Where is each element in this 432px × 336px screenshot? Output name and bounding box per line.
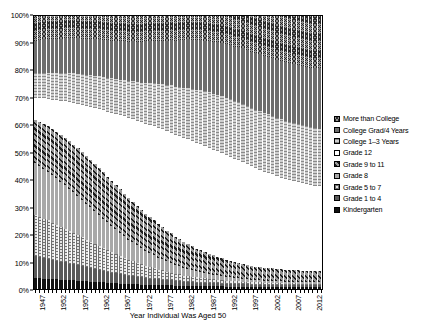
bar-segment-college-1-3-years [85,75,88,106]
x-axis-tick-mark [248,290,249,293]
bar-segment-kindergarten [275,287,278,289]
bar-segment-grade-5-to-7 [89,242,92,268]
bar-segment-grade-9-to-11 [131,202,134,242]
bar-segment-grade-5-to-7 [68,231,71,264]
bar-segment-grade-12 [136,121,139,206]
bar-segment-grade-1-to-4 [81,266,84,281]
bar-segment-kindergarten [127,284,130,289]
x-axis-tick-mark [35,290,36,293]
bar-segment-grade-5-to-7 [72,233,75,264]
legend-item[interactable]: Grade 1 to 4 [334,193,432,204]
bar-segment-college-grad-4-years [102,40,105,77]
y-axis-tick-label: 100% [11,11,29,20]
legend-item[interactable]: College 1–3 Years [334,136,432,147]
bar-segment-grade-9-to-11 [81,152,84,200]
bar-segment-more-than-college [76,16,79,38]
bar-segment-college-grad-4-years [212,42,215,94]
bar-segment-college-1-3-years [288,122,291,181]
bar-segment-college-grad-4-years [275,60,278,118]
legend-item[interactable]: More than College [334,113,432,124]
bar-segment-college-1-3-years [38,73,41,98]
bar-segment-college-grad-4-years [89,39,92,75]
bar-segment-grade-8 [131,242,134,261]
bar-segment-grade-9-to-11 [76,148,79,196]
bar-segment-grade-12 [51,100,54,129]
y-axis-tick-label: 80% [15,66,29,75]
bar-segment-kindergarten [229,287,232,289]
bar-segment-kindergarten [203,286,206,289]
x-axis-tick-mark [184,290,185,293]
bar-segment-grade-8 [178,266,181,274]
bar-segment-grade-9-to-11 [216,257,219,276]
bar-segment-grade-9-to-11 [64,138,67,185]
bar-segment-grade-8 [81,200,84,238]
bar-segment-grade-9-to-11 [225,260,228,277]
bar-segment-college-grad-4-years [182,40,185,88]
legend-item[interactable]: Grade 8 [334,170,432,181]
bar-segment-more-than-college [182,16,185,40]
bar-segment-grade-5-to-7 [51,223,54,260]
bar-segment-more-than-college [195,16,198,40]
bar-segment-kindergarten [263,287,266,289]
bar-segment-college-grad-4-years [208,41,211,92]
legend-item-label: Grade 5 to 7 [343,183,381,192]
bar-segment-grade-12 [76,104,79,148]
bar-segment-college-grad-4-years [85,39,88,75]
legend-item-label: More than College [343,114,399,123]
bar-segment-kindergarten [225,287,228,289]
bar-segment-grade-9-to-11 [89,160,92,207]
bar-segment-grade-1-to-4 [106,272,109,283]
bar-column[interactable] [318,16,322,289]
bar-segment-grade-9-to-11 [233,262,236,278]
legend-item[interactable]: Grade 5 to 7 [334,181,432,192]
bar-segment-more-than-college [72,16,75,38]
bar-segment-college-grad-4-years [148,41,151,83]
bar-segment-more-than-college [165,16,168,41]
bar-segment-kindergarten [153,285,156,289]
bar-segment-grade-12 [297,182,300,270]
legend-item-label: Grade 8 [343,171,368,180]
bar-segment-grade-5-to-7 [157,270,160,280]
bar-segment-kindergarten [288,287,291,289]
bar-segment-college-grad-4-years [68,38,71,73]
bar-segment-grade-8 [106,222,109,250]
bar-segment-grade-1-to-4 [47,259,50,279]
bar-segment-kindergarten [34,278,37,289]
bar-segment-grade-9-to-11 [110,181,113,226]
x-axis-tick-mark [321,290,322,293]
bar-segment-grade-9-to-11 [241,264,244,279]
legend-swatch-icon [334,150,340,156]
x-axis-tick-label: 1982 [187,295,196,311]
bar-segment-more-than-college [233,16,236,47]
legend-item[interactable]: College Grad/4 Years [334,124,432,135]
bar-segment-kindergarten [148,285,151,289]
legend-item[interactable]: Grade 12 [334,147,432,158]
bar-segment-grade-12 [42,98,45,123]
bar-segment-grade-9-to-11 [288,270,291,282]
x-axis-tick-mark [189,290,190,293]
bar-segment-kindergarten [191,286,194,289]
bar-segment-more-than-college [305,16,308,67]
y-axis-tick-label: 60% [15,121,29,130]
bar-segment-college-grad-4-years [225,44,228,98]
bar-segment-grade-12 [186,139,189,244]
bar-segment-grade-9-to-11 [153,220,156,255]
bar-segment-grade-1-to-4 [98,270,101,282]
bar-segment-kindergarten [119,284,122,289]
bar-segment-grade-5-to-7 [153,268,156,279]
legend-item-label: Kindergarten [343,205,382,214]
bar-segment-more-than-college [203,16,206,41]
bar-segment-grade-12 [203,146,206,252]
bar-segment-grade-8 [34,163,37,215]
x-axis-tick-mark [65,290,66,293]
bar-segment-college-grad-4-years [153,41,156,84]
bar-segment-grade-9-to-11 [199,250,202,272]
x-axis-tick-mark [112,290,113,293]
bar-segment-grade-9-to-11 [191,246,194,270]
bar-segment-kindergarten [64,280,67,289]
legend-item[interactable]: Kindergarten [334,204,432,215]
bar-segment-college-1-3-years [237,102,240,160]
bar-segment-kindergarten [136,284,139,289]
bar-segment-grade-12 [241,162,244,264]
legend-item[interactable]: Grade 9 to 11 [334,159,432,170]
